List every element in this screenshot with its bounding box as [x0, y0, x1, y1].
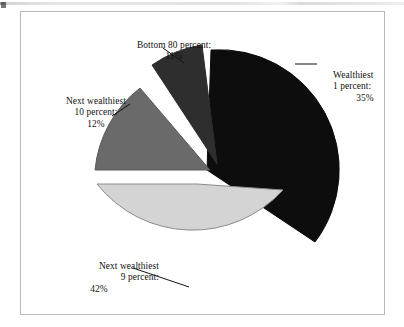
pie-label-next-wealthiest-9-percent-value: 42%	[49, 284, 149, 295]
scan-artifact-tick	[1, 2, 6, 8]
figure-root: Bottom 80 percent: 11% Wealthiest 1 perc…	[0, 0, 404, 327]
pie-label-next-wealthiest-10-percent: Next wealthiest 10 percent: 12%	[43, 96, 149, 130]
pie-label-next-wealthiest-9-percent-line2: 9 percent:	[49, 272, 159, 283]
pie-slice-next-wealthiest-9-percent[interactable]	[97, 184, 283, 230]
pie-label-wealthiest-1-percent-line1: Wealthiest	[333, 70, 404, 81]
pie-label-bottom-80-percent: Bottom 80 percent: 11%	[119, 40, 229, 63]
pie-label-bottom-80-percent-line1: Bottom 80 percent:	[119, 40, 229, 51]
pie-label-next-wealthiest-9-percent-line1: Next wealthiest	[49, 261, 159, 272]
figure-frame: Bottom 80 percent: 11% Wealthiest 1 perc…	[20, 11, 385, 315]
pie-label-bottom-80-percent-value: 11%	[119, 51, 229, 62]
pie-label-next-wealthiest-10-percent-line2: 10 percent:	[43, 107, 149, 118]
scan-artifact-strip	[0, 2, 404, 5]
pie-label-wealthiest-1-percent: Wealthiest 1 percent: 35%	[333, 70, 404, 104]
pie-label-next-wealthiest-9-percent: Next wealthiest 9 percent: 42%	[49, 261, 159, 295]
pie-label-next-wealthiest-10-percent-value: 12%	[43, 119, 149, 130]
pie-label-wealthiest-1-percent-value: 35%	[333, 93, 397, 104]
pie-label-next-wealthiest-10-percent-line1: Next wealthiest	[43, 96, 149, 107]
pie-label-wealthiest-1-percent-line2: 1 percent:	[333, 81, 404, 92]
